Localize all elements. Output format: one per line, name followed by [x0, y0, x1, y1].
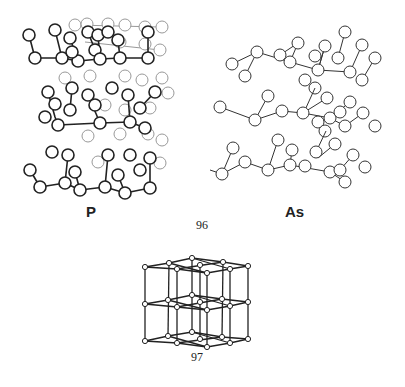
figure-canvas: [0, 0, 405, 387]
phosphorus-label: P: [86, 203, 96, 220]
phosphorus-structure: [23, 18, 174, 199]
figure-number-97: 97: [191, 350, 203, 365]
arsenic-label: As: [285, 203, 304, 220]
figure-number-96: 96: [196, 218, 208, 233]
arsenic-structure: [210, 26, 381, 188]
cubic-lattice: [142, 255, 250, 349]
